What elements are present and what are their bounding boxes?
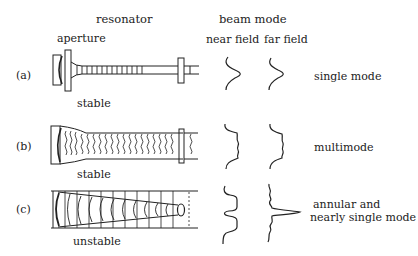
far-field-b-curve	[270, 124, 283, 169]
near-field-b-curve	[225, 124, 239, 169]
far-field-c-curve	[268, 184, 300, 242]
resonator-b	[51, 126, 198, 164]
diagram-canvas	[0, 0, 418, 256]
near-field-c-curve	[223, 186, 237, 244]
resonator-c	[51, 191, 198, 228]
resonator-a	[53, 50, 199, 91]
far-field-a-curve	[269, 58, 283, 90]
near-field-a-curve	[226, 57, 240, 90]
